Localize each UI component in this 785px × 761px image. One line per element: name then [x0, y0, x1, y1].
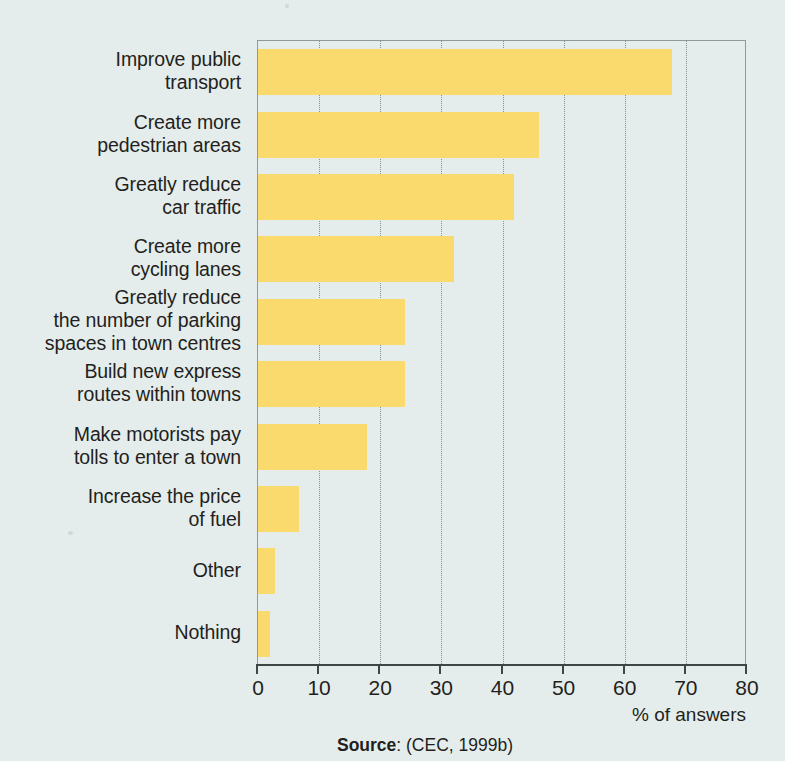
bar	[258, 424, 367, 470]
category-label: Greatly reduce car traffic	[0, 173, 249, 219]
x-axis-tick	[256, 664, 258, 674]
x-axis-tick	[745, 664, 747, 674]
bar	[258, 361, 405, 407]
x-axis-tick	[439, 664, 441, 674]
x-axis-tick-label: 70	[656, 676, 716, 700]
x-axis-tick	[623, 664, 625, 674]
category-label: Greatly reduce the number of parking spa…	[0, 286, 249, 355]
bar	[258, 548, 275, 594]
bar	[258, 112, 539, 158]
category-label: Create more cycling lanes	[0, 235, 249, 281]
category-label: Increase the price of fuel	[0, 485, 249, 531]
x-axis-tick-label: 60	[595, 676, 655, 700]
category-label: Improve public transport	[0, 48, 249, 94]
x-axis-tick-label: 0	[228, 676, 288, 700]
category-label: Other	[0, 559, 249, 582]
x-axis-tick	[378, 664, 380, 674]
bar-chart-figure: Improve public transportCreate more pede…	[0, 0, 785, 761]
x-axis-tick-label: 80	[717, 676, 777, 700]
gridline	[686, 41, 687, 664]
bar	[258, 611, 270, 657]
category-axis-labels: Improve public transportCreate more pede…	[0, 40, 249, 664]
x-axis-tick-label: 40	[473, 676, 533, 700]
x-axis-tick	[317, 664, 319, 674]
gridline	[564, 41, 565, 664]
source-text: : (CEC, 1999b)	[396, 735, 513, 755]
x-axis-title: % of answers	[546, 704, 746, 726]
gridline	[625, 41, 626, 664]
category-label: Make motorists pay tolls to enter a town	[0, 423, 249, 469]
category-label: Build new express routes within towns	[0, 360, 249, 406]
source-label: Source	[337, 735, 396, 755]
bar	[258, 49, 672, 95]
x-axis-tick	[501, 664, 503, 674]
x-axis-tick-label: 10	[289, 676, 349, 700]
category-label: Nothing	[0, 621, 249, 644]
bar	[258, 299, 405, 345]
category-label: Create more pedestrian areas	[0, 111, 249, 157]
x-axis-tick-label: 20	[350, 676, 410, 700]
bar	[258, 174, 514, 220]
scan-speck	[285, 4, 289, 8]
x-axis-tick	[562, 664, 564, 674]
x-axis-tick-label: 30	[411, 676, 471, 700]
x-axis-tick-label: 50	[534, 676, 594, 700]
bar	[258, 236, 454, 282]
plot-area	[257, 40, 746, 664]
x-axis-tick	[684, 664, 686, 674]
bar	[258, 486, 299, 532]
source-note: Source: (CEC, 1999b)	[0, 735, 513, 756]
